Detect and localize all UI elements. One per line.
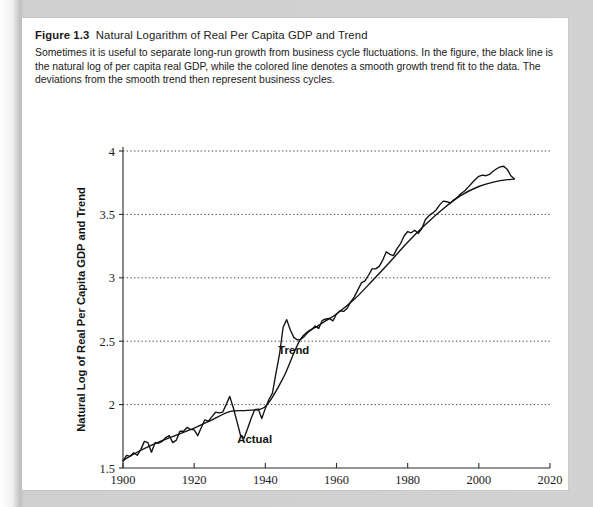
xtick-label-2020: 2020 bbox=[538, 473, 563, 486]
y-axis-tick-labels: 1.522.533.54 bbox=[100, 145, 116, 476]
series-path-actual bbox=[123, 166, 514, 461]
grid-lines bbox=[123, 151, 550, 405]
xtick-label-2000: 2000 bbox=[466, 473, 491, 486]
figure-title: Figure 1.3 Natural Logarithm of Real Per… bbox=[35, 28, 555, 43]
series-annotations: TrendActual bbox=[237, 344, 309, 445]
screenshot-root: Figure 1.3 Natural Logarithm of Real Per… bbox=[0, 0, 593, 507]
annotation-trend: Trend bbox=[278, 344, 309, 356]
ytick-label-4: 4 bbox=[109, 145, 115, 159]
chart-axes bbox=[123, 147, 550, 468]
x-axis-tick-labels: 1900192019401960198020002020 bbox=[111, 473, 563, 486]
xtick-label-1980: 1980 bbox=[395, 473, 420, 486]
xtick-label-1900: 1900 bbox=[111, 473, 136, 486]
ytick-label-3: 3 bbox=[109, 271, 115, 285]
series-path-trend bbox=[123, 179, 514, 460]
annotation-actual: Actual bbox=[237, 433, 272, 445]
figure-title-text: Natural Logarithm of Real Per Capita GDP… bbox=[96, 29, 368, 41]
xtick-label-1960: 1960 bbox=[324, 473, 349, 486]
figure-caption-block: Figure 1.3 Natural Logarithm of Real Per… bbox=[35, 28, 555, 87]
y-axis-title: Natural Log of Real Per Capita GDP and T… bbox=[75, 187, 87, 432]
axis-titles: YearNatural Log of Real Per Capita GDP a… bbox=[75, 187, 349, 486]
ytick-label-3.5: 3.5 bbox=[100, 208, 116, 222]
figure-card: Figure 1.3 Natural Logarithm of Real Per… bbox=[22, 18, 568, 490]
line-chart: 1.522.533.54 190019201940196019802000202… bbox=[22, 111, 568, 486]
axis-ticks bbox=[119, 151, 550, 468]
figure-description: Sometimes it is useful to separate long-… bbox=[35, 46, 555, 87]
chart-plot-area: 1.522.533.54 190019201940196019802000202… bbox=[22, 111, 568, 486]
xtick-label-1920: 1920 bbox=[182, 473, 207, 486]
ytick-label-2.5: 2.5 bbox=[100, 335, 116, 349]
figure-number: Figure 1.3 bbox=[35, 29, 89, 41]
chart-series bbox=[123, 166, 514, 461]
xtick-label-1940: 1940 bbox=[253, 473, 278, 486]
ytick-label-2: 2 bbox=[109, 398, 115, 412]
